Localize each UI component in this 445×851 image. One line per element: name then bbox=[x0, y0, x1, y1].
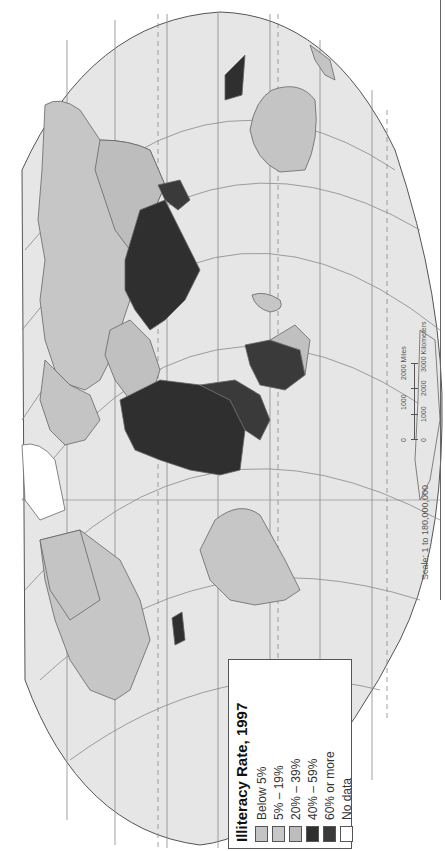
scale-miles-2000: 2000 Miles bbox=[400, 346, 407, 380]
scale-km-3000: 3000 Kilometers bbox=[420, 321, 427, 372]
scale-miles-1000: 1000 bbox=[400, 394, 407, 410]
legend-swatch-below-5 bbox=[255, 826, 268, 842]
scale-km-2000: 2000 bbox=[420, 380, 427, 396]
legend-item: 60% or more bbox=[321, 666, 338, 842]
legend-label: 40% – 59% bbox=[306, 759, 320, 820]
legend-label: 20% – 39% bbox=[289, 759, 303, 820]
legend-item: No data bbox=[338, 666, 355, 842]
world-map bbox=[0, 0, 445, 851]
legend-swatch-no-data bbox=[340, 826, 353, 842]
legend-item: Below 5% bbox=[253, 666, 270, 842]
scale-km-1000: 1000 bbox=[420, 406, 427, 422]
legend-swatch-5-19 bbox=[272, 826, 285, 842]
scale-tick bbox=[411, 439, 418, 440]
legend-swatch-40-59 bbox=[306, 826, 319, 842]
legend-item: 40% – 59% bbox=[304, 666, 321, 842]
legend-label: 5% – 19% bbox=[272, 765, 286, 820]
legend-swatch-20-39 bbox=[289, 826, 302, 842]
legend-item: 5% – 19% bbox=[270, 666, 287, 842]
legend-title: Illiteracy Rate, 1997 bbox=[233, 666, 250, 842]
scale-miles-0: 0 bbox=[400, 438, 407, 442]
legend-item: 20% – 39% bbox=[287, 666, 304, 842]
scale-tick bbox=[411, 414, 418, 415]
map-scale: Scale: 1 to 180,000,000 0 1000 2000 Mile… bbox=[398, 220, 438, 590]
scale-text: Scale: 1 to 180,000,000 bbox=[420, 485, 430, 580]
legend-label: Below 5% bbox=[255, 767, 269, 820]
scale-tick bbox=[411, 363, 418, 364]
legend: Illiteracy Rate, 1997 Below 5% 5% – 19% … bbox=[228, 659, 352, 849]
legend-label: No data bbox=[340, 778, 354, 820]
map-frame-edge bbox=[440, 0, 441, 600]
scale-km-0: 0 bbox=[420, 438, 427, 442]
legend-label: 60% or more bbox=[323, 751, 337, 820]
scale-bar: 0 1000 2000 Miles 0 1000 2000 3000 Kilom… bbox=[414, 364, 415, 440]
scale-tick bbox=[411, 388, 418, 389]
legend-swatch-60-plus bbox=[323, 826, 336, 842]
